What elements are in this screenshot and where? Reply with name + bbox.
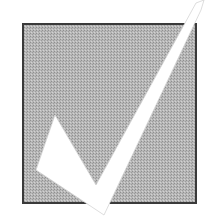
checkmark-box-svg [0, 0, 221, 219]
checkmark-box-illustration: checkmark in box [0, 0, 221, 219]
